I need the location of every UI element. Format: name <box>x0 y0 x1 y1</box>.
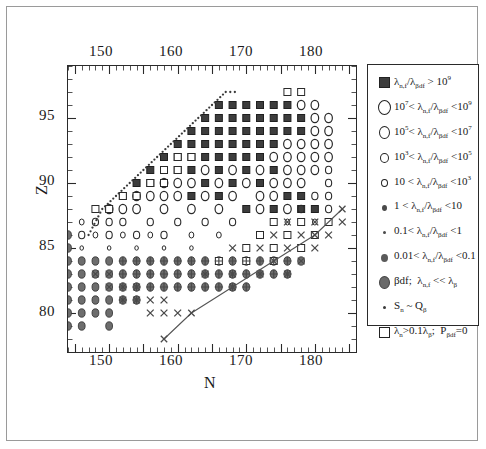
dot-large-icon <box>374 254 394 262</box>
legend-item-3: 103< λn,f/λβdf <105 <box>368 145 478 170</box>
legend: λn,f/λβdf > 109 107< λn,f/λβdf <109 105<… <box>367 64 479 326</box>
legend-label-7: 0.01< λn,f/λβdf <0.1 <box>394 250 476 264</box>
x-tick-top-160: 160 <box>159 43 183 60</box>
filled-square-icon <box>374 77 394 88</box>
legend-label-3: 103< λn,f/λβdf <105 <box>394 150 472 165</box>
legend-item-5: 1 < λn,f/λβdf <10 <box>368 195 478 220</box>
legend-label-6: 0.1< λn,f/λβdf <1 <box>394 225 462 239</box>
x-tick-bottom-150: 150 <box>89 352 113 369</box>
legend-item-10: λn>0.1λβ; Pβdf=0 <box>368 320 478 345</box>
legend-label-9: Sn ~ Qβ <box>394 300 427 314</box>
circle-large-icon <box>374 126 394 139</box>
legend-label-5: 1 < λn,f/λβdf <10 <box>394 200 462 214</box>
plot-area <box>67 65 357 353</box>
legend-label-1: 107< λn,f/λβdf <109 <box>394 100 472 115</box>
legend-item-6: 0.1< λn,f/λβdf <1 <box>368 220 478 245</box>
dot-medium-icon <box>374 205 394 211</box>
y-tick-80: 80 <box>39 303 55 320</box>
legend-item-2: 105< λn,f/λβdf <107 <box>368 120 478 145</box>
legend-item-0: λn,f/λβdf > 109 <box>368 70 478 95</box>
y-axis-title: Z <box>33 185 51 195</box>
y-tick-85: 85 <box>39 237 55 254</box>
legend-label-0: λn,f/λβdf > 109 <box>394 75 451 90</box>
x-tick-top-180: 180 <box>299 43 323 60</box>
y-tick-95: 95 <box>39 107 55 124</box>
legend-label-8: βdf; λn,f << λβ <box>394 275 457 289</box>
legend-item-8: βdf; λn,f << λβ <box>368 270 478 295</box>
legend-item-1: 107< λn,f/λβdf <109 <box>368 95 478 120</box>
dot-small-icon <box>374 231 394 234</box>
legend-label-10: λn>0.1λβ; Pβdf=0 <box>394 325 468 339</box>
circle-xlarge-icon <box>374 100 394 115</box>
circle-small-icon <box>374 179 394 187</box>
x-axis-title: N <box>204 374 216 392</box>
open-square-icon <box>374 327 394 338</box>
x-tick-top-170: 170 <box>229 43 253 60</box>
scatter-plot-canvas <box>68 66 356 352</box>
x-tick-bottom-160: 160 <box>159 352 183 369</box>
circle-medium-icon <box>374 153 394 163</box>
legend-label-2: 105< λn,f/λβdf <107 <box>394 125 472 140</box>
x-tick-bottom-180: 180 <box>299 352 323 369</box>
x-tick-top-150: 150 <box>89 43 113 60</box>
legend-item-4: 10 < λn,f/λβdf <103 <box>368 170 478 195</box>
legend-item-9: Sn ~ Qβ <box>368 295 478 320</box>
legend-label-4: 10 < λn,f/λβdf <103 <box>394 175 471 190</box>
dot-xlarge-icon <box>374 276 394 289</box>
figure-frame: 150 160 170 180 95 90 85 80 150 160 170 … <box>6 6 478 441</box>
legend-item-7: 0.01< λn,f/λβdf <0.1 <box>368 245 478 270</box>
dot-tiny-icon <box>374 306 394 309</box>
x-tick-bottom-170: 170 <box>229 352 253 369</box>
